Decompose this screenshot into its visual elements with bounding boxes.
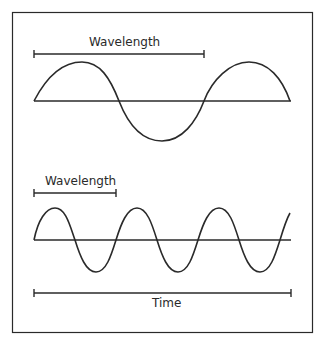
- bottom-wavelength-bracket: [34, 189, 116, 197]
- top-wavelength-bracket: [34, 50, 204, 58]
- top-wavelength-label: Wavelength: [89, 35, 160, 49]
- time-label: Time: [152, 296, 181, 310]
- diagram-canvas: [0, 0, 322, 338]
- bottom-wavelength-label: Wavelength: [45, 174, 116, 188]
- diagram-border: [13, 13, 313, 333]
